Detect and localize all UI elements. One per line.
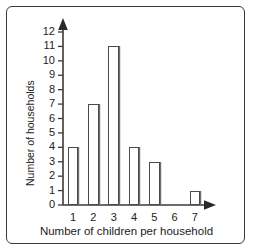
bar	[68, 147, 79, 205]
y-tick-label: 11	[29, 40, 55, 51]
bar	[88, 104, 99, 205]
y-axis-title: Number of households	[24, 80, 36, 186]
y-tick-label: 0	[29, 199, 55, 210]
y-axis-arrow-icon	[58, 18, 68, 30]
y-tick-label: 10	[29, 55, 55, 66]
x-axis-title: Number of children per household	[0, 225, 253, 237]
y-tick-label: 12	[29, 26, 55, 37]
x-axis-arrow-icon	[204, 200, 216, 210]
bar	[129, 147, 140, 205]
bar	[149, 162, 160, 205]
y-tick-label: 1	[29, 185, 55, 196]
x-tick-label: 7	[181, 212, 209, 223]
bar	[190, 191, 201, 205]
bar	[108, 46, 119, 205]
y-tick-label: 9	[29, 69, 55, 80]
